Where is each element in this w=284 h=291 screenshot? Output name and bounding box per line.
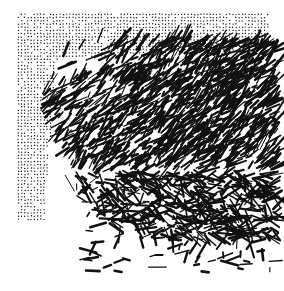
hatched-illustration <box>0 0 284 291</box>
